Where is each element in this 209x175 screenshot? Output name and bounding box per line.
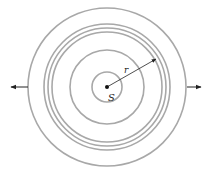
radius-arrow [107, 59, 156, 87]
source-label: S [108, 92, 115, 103]
source-dot [105, 85, 109, 89]
wavefront-diagram: S r [0, 0, 209, 175]
radius-label: r [124, 65, 129, 75]
